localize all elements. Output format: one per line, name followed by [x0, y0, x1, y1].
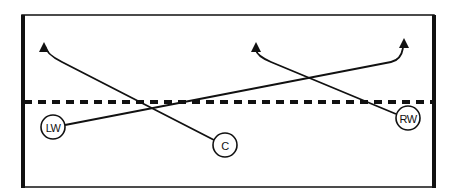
arrowhead-icon: [251, 42, 261, 52]
path-rw-to-middle: [256, 50, 396, 114]
path-c-to-left: [45, 46, 214, 140]
arrowhead-icon: [399, 38, 409, 48]
player-label: RW: [399, 113, 417, 125]
arrowhead-icon: [39, 42, 49, 52]
play-diagram: LW C RW: [0, 0, 455, 196]
player-lw: LW: [41, 115, 65, 139]
court: [22, 15, 434, 188]
movement-paths: [39, 38, 409, 140]
path-lw-to-right: [65, 48, 403, 125]
player-label: C: [221, 140, 229, 152]
player-label: LW: [46, 122, 62, 134]
player-rw: RW: [396, 106, 420, 130]
player-c: C: [213, 133, 237, 157]
